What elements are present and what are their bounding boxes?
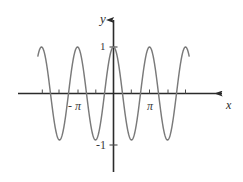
cosine-graph-figure: y x - π π 1 -1 bbox=[0, 0, 243, 182]
tick-label-negative-one: -1 bbox=[96, 139, 106, 151]
y-axis-label: y bbox=[100, 12, 106, 25]
tick-label-negative-pi: - π bbox=[68, 100, 81, 112]
tick-label-one: 1 bbox=[100, 41, 106, 52]
plot-canvas bbox=[0, 0, 243, 182]
tick-label-pi: π bbox=[147, 100, 153, 112]
x-axis-label: x bbox=[226, 99, 231, 111]
